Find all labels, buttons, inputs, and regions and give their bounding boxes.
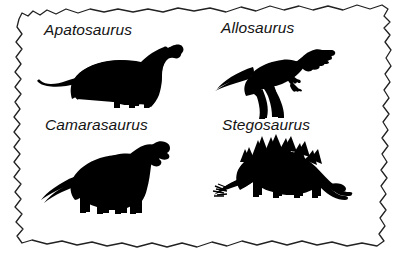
dinosaur-chart: Apatosaurus Allosaurus Camarasaurus Steg… <box>0 0 400 261</box>
specimen-label-allosaurus: Allosaurus <box>221 19 294 37</box>
specimen-label-stegosaurus: Stegosaurus <box>222 116 310 134</box>
specimen-label-apatosaurus: Apatosaurus <box>44 21 132 39</box>
specimen-label-camarasaurus: Camarasaurus <box>45 116 148 134</box>
